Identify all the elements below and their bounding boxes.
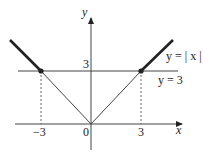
intersection-point-right	[138, 68, 143, 73]
horizontal-line-label: y = 3	[158, 73, 183, 87]
abs-curve-thick-left	[10, 40, 41, 71]
intersection-point-left	[38, 68, 43, 73]
y-tick-3: 3	[83, 57, 89, 71]
abs-curve-label: y = | x |	[166, 49, 202, 63]
x-tick-3: 3	[138, 125, 144, 139]
origin-label: 0	[83, 125, 89, 139]
y-axis-label: y	[81, 5, 88, 19]
x-axis-label: x	[175, 123, 182, 137]
x-tick-neg3: −3	[33, 125, 46, 139]
absolute-value-graph: y x 0 −3 3 3 y = | x | y = 3	[0, 0, 203, 155]
